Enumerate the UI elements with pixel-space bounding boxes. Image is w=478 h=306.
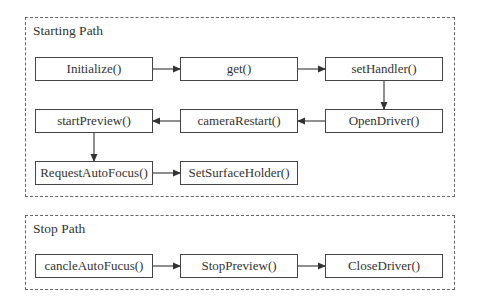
- node-request-auto-focus: RequestAutoFocus(): [35, 161, 153, 185]
- node-initialize: Initialize(): [35, 57, 153, 81]
- node-camera-restart: cameraRestart(): [180, 109, 298, 133]
- starting-path-title: Starting Path: [33, 23, 103, 39]
- node-open-driver: OpenDriver(): [325, 109, 443, 133]
- node-cancle-auto-fucus: cancleAutoFucus(): [35, 254, 153, 278]
- stop-path-group: [25, 215, 455, 290]
- node-set-surface-holder: SetSurfaceHolder(): [180, 161, 298, 185]
- node-start-preview: startPreview(): [35, 109, 153, 133]
- node-get: get(): [180, 57, 298, 81]
- node-set-handler: setHandler(): [325, 57, 443, 81]
- node-close-driver: CloseDriver(): [325, 254, 443, 278]
- stop-path-title: Stop Path: [33, 221, 85, 237]
- node-stop-preview: StopPreview(): [180, 254, 298, 278]
